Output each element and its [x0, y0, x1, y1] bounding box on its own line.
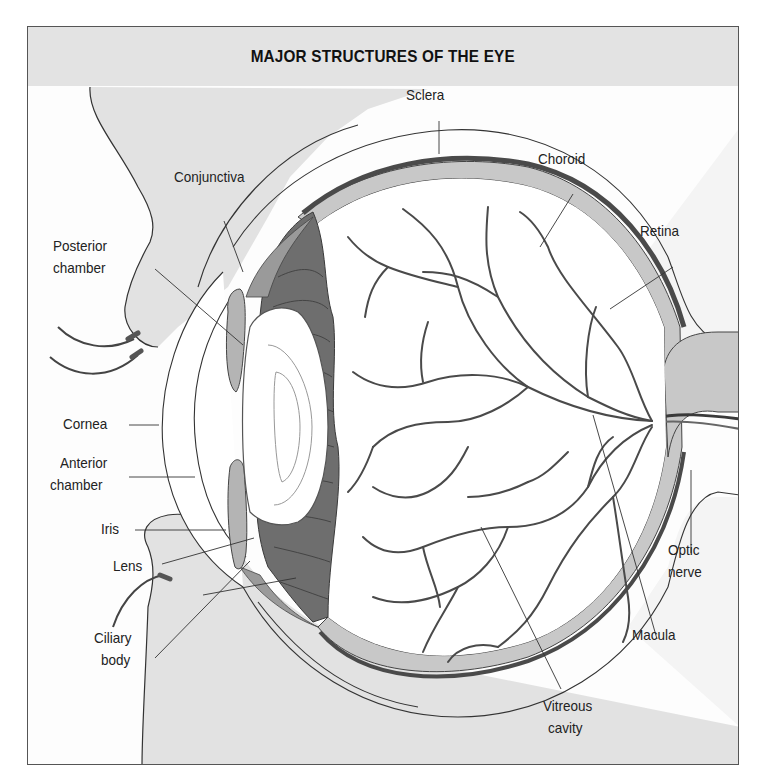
label-ciliary-body-line2: body [101, 649, 130, 671]
label-ciliary-body-line1: Ciliary [94, 627, 132, 649]
label-conjunctiva: Conjunctiva [174, 166, 245, 188]
label-sclera: Sclera [406, 84, 444, 106]
label-iris: Iris [101, 518, 119, 540]
diagram-frame: MAJOR STRUCTURES OF THE EYE [27, 26, 739, 765]
label-lens: Lens [113, 555, 142, 577]
label-optic-nerve-line1: Optic [668, 539, 700, 561]
label-vitreous-cavity-line1: Vitreous [543, 695, 592, 717]
eye-illustration [28, 27, 739, 765]
label-optic-nerve-line2: nerve [668, 561, 702, 583]
label-choroid: Choroid [538, 148, 585, 170]
label-retina: Retina [640, 220, 679, 242]
label-anterior-chamber-line2: chamber [50, 474, 103, 496]
eyelash-upper-2 [50, 355, 138, 374]
label-cornea: Cornea [63, 413, 107, 435]
label-posterior-chamber-line1: Posterior [53, 235, 107, 257]
lens [243, 308, 329, 525]
label-vitreous-cavity-line2: cavity [548, 717, 583, 739]
label-posterior-chamber-line2: chamber [53, 257, 106, 279]
iris-upper [226, 289, 245, 392]
eyelash-upper-1 [58, 327, 134, 346]
label-macula: Macula [632, 624, 676, 646]
label-anterior-chamber-line1: Anterior [60, 452, 107, 474]
